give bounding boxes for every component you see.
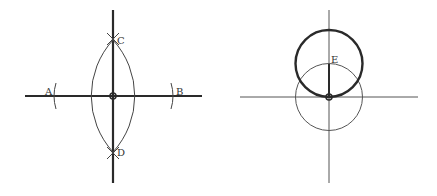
label-a: A [44, 86, 53, 97]
label-d: D [117, 147, 125, 158]
label-c: C [117, 35, 125, 46]
figure-tangent-circles: E [240, 10, 418, 183]
diagram-canvas: A B C D E [0, 0, 437, 196]
label-b: B [176, 86, 183, 97]
label-e: E [331, 54, 338, 65]
figure-perpendicular-bisector: A B C D [25, 10, 202, 183]
